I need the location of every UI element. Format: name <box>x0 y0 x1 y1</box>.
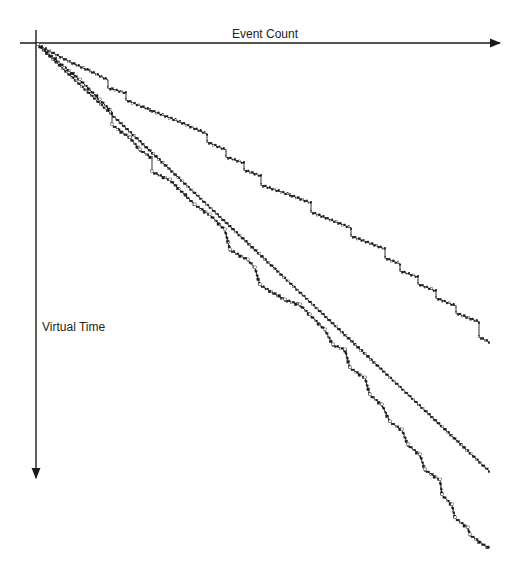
top-staircase-curve <box>38 45 489 342</box>
y-axis-label: Virtual Time <box>42 320 105 334</box>
x-axis-label: Event Count <box>232 27 298 41</box>
diagram-canvas <box>0 0 523 582</box>
bottom-staircase-curve <box>38 45 488 548</box>
event-virtual-time-diagram: Event Count Virtual Time <box>0 0 523 582</box>
curves-group <box>37 43 490 549</box>
